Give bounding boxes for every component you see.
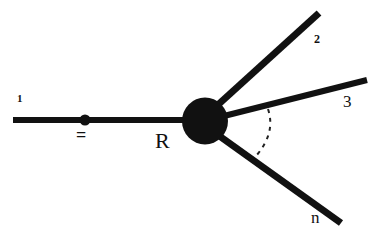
label-incoming-line-1: 1 <box>17 93 23 104</box>
label-outgoing-line-3: 3 <box>343 93 352 110</box>
label-equals-sign: = <box>76 126 86 144</box>
propagator-dot <box>80 115 91 126</box>
interaction-blob <box>182 98 228 145</box>
label-outgoing-line-n: n <box>311 209 320 226</box>
label-vertex-blob-R: R <box>155 130 170 152</box>
label-outgoing-line-2: 2 <box>314 33 320 45</box>
feynman-diagram-figure: 1 = R 2 3 n <box>0 0 373 241</box>
outgoing-line-n <box>211 130 341 223</box>
dashed-ellipsis-arc <box>256 109 270 156</box>
